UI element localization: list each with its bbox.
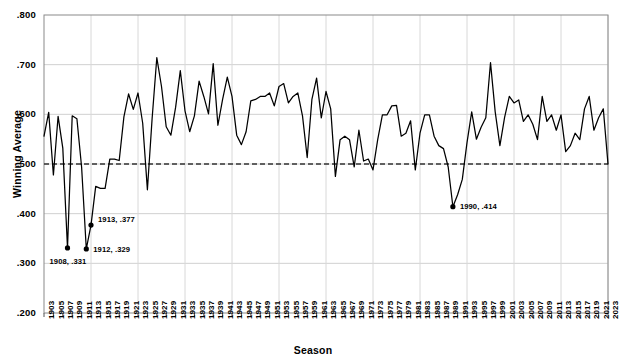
- x-axis-tick-label: 2003: [517, 301, 526, 319]
- annotation-marker: [88, 222, 93, 227]
- x-axis-tick-label: 2009: [545, 301, 554, 319]
- x-axis-tick-label: 1945: [245, 301, 254, 319]
- annotation-marker: [84, 246, 89, 251]
- x-axis-tick-label: 1933: [188, 301, 197, 319]
- x-axis-tick-label: 1915: [104, 301, 113, 319]
- x-axis-tick-label: 1927: [160, 301, 169, 319]
- x-axis-tick-label: 1999: [498, 301, 507, 319]
- x-axis-tick-label: 1969: [357, 301, 366, 319]
- x-axis-tick-label: 1917: [113, 301, 122, 319]
- x-axis-tick-label: 1935: [198, 301, 207, 319]
- y-axis-tick-label: .200: [2, 307, 36, 318]
- x-axis-tick-label: 1973: [376, 301, 385, 319]
- x-axis-tick-label: 1921: [132, 301, 141, 319]
- x-axis-tick-label: 1975: [386, 301, 395, 319]
- x-axis-tick-label: 1943: [235, 301, 244, 319]
- x-axis-tick-label: 1929: [169, 301, 178, 319]
- x-axis-tick-label: 1963: [329, 301, 338, 319]
- x-axis-tick-label: 1949: [263, 301, 272, 319]
- x-axis-tick-label: 1939: [216, 301, 225, 319]
- annotation-marker: [450, 204, 455, 209]
- x-axis-tick-label: 1957: [301, 301, 310, 319]
- x-axis-tick-label: 1987: [442, 301, 451, 319]
- x-axis-tick-label: 2007: [536, 301, 545, 319]
- y-axis-tick-label: .600: [2, 108, 36, 119]
- annotation-label: 1990, .414: [460, 202, 497, 211]
- x-axis-tick-label: 1905: [57, 301, 66, 319]
- x-axis-tick-label: 1913: [94, 301, 103, 319]
- x-axis-tick-label: 1961: [320, 301, 329, 319]
- x-axis-tick-label: 1971: [367, 301, 376, 319]
- x-axis-tick-label: 2001: [508, 301, 517, 319]
- x-axis-tick-label: 1979: [404, 301, 413, 319]
- x-axis-tick-label: 1977: [395, 301, 404, 319]
- x-axis-tick-label: 1981: [414, 301, 423, 319]
- x-axis-tick-label: 1923: [141, 301, 150, 319]
- x-axis-tick-label: 1937: [207, 301, 216, 319]
- x-axis-tick-label: 1953: [282, 301, 291, 319]
- x-axis-tick-label: 1909: [75, 301, 84, 319]
- y-axis-tick-label: .800: [2, 9, 36, 20]
- x-axis-tick-label: 1911: [85, 301, 94, 319]
- x-axis-tick-label: 2019: [592, 301, 601, 319]
- x-axis-tick-label: 1947: [254, 301, 263, 319]
- x-axis-tick-label: 1993: [470, 301, 479, 319]
- x-axis-tick-label: 2005: [527, 301, 536, 319]
- y-axis-tick-label: .400: [2, 208, 36, 219]
- x-axis-tick-label: 2011: [555, 301, 564, 319]
- x-axis-tick-label: 1989: [451, 301, 460, 319]
- winning-average-chart: Winning Average Season .800.700.600.500.…: [0, 0, 626, 360]
- x-axis-tick-label: 2015: [574, 301, 583, 319]
- x-axis-tick-label: 2021: [602, 301, 611, 319]
- x-axis-tick-label: 1967: [348, 301, 357, 319]
- y-axis-tick-label: .300: [2, 257, 36, 268]
- x-axis-tick-label: 2017: [583, 301, 592, 319]
- x-axis-tick-label: 1907: [66, 301, 75, 319]
- x-axis-tick-label: 1925: [151, 301, 160, 319]
- y-axis-tick-label: .700: [2, 59, 36, 70]
- annotation-label: 1913, .377: [98, 215, 135, 224]
- y-axis-tick-label: .500: [2, 158, 36, 169]
- x-axis-tick-label: 1985: [433, 301, 442, 319]
- x-axis-tick-label: 1995: [480, 301, 489, 319]
- x-axis-tick-label: 1965: [339, 301, 348, 319]
- x-axis-tick-label: 1951: [273, 301, 282, 319]
- x-axis-tick-label: 1903: [47, 301, 56, 319]
- x-axis-tick-label: 2023: [611, 301, 620, 319]
- annotation-label: 1908, .331: [50, 257, 87, 266]
- annotation-marker: [65, 245, 70, 250]
- x-axis-tick-label: 1941: [226, 301, 235, 319]
- x-axis-tick-label: 1919: [122, 301, 131, 319]
- x-axis-tick-label: 1991: [461, 301, 470, 319]
- x-axis-tick-label: 1955: [292, 301, 301, 319]
- x-axis-tick-label: 2013: [564, 301, 573, 319]
- x-axis-tick-label: 1997: [489, 301, 498, 319]
- x-axis-tick-label: 1959: [310, 301, 319, 319]
- annotation-label: 1912, .329: [93, 245, 130, 254]
- x-axis-tick-label: 1983: [423, 301, 432, 319]
- x-axis-tick-label: 1931: [179, 301, 188, 319]
